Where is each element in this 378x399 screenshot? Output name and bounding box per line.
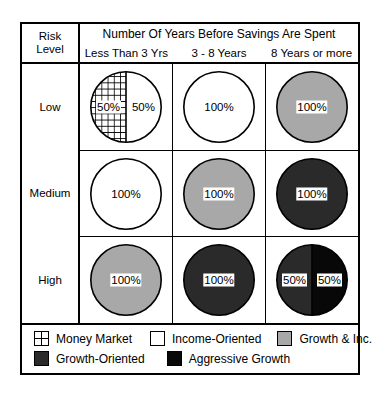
risk-level-column: Risk Level Low Medium High [22, 24, 80, 323]
pie-slice-value: 50% [96, 100, 121, 113]
legend-item-growth-oriented: Growth-Oriented [34, 351, 145, 366]
pie-slice-value: 50% [131, 100, 156, 113]
legend-item-growth-and-inc: Growth & Inc. [277, 331, 372, 346]
pie-chart: 100% [182, 243, 256, 317]
risk-level-header: Risk Level [22, 24, 78, 64]
legend-label-growth-and-inc: Growth & Inc. [299, 332, 372, 346]
risk-level-header-line2: Level [36, 43, 64, 56]
risk-level-header-line1: Risk [39, 30, 61, 43]
pie-chart: 50%50% [89, 70, 163, 144]
matrix-cell: 50%50% [266, 237, 358, 323]
pie-slice-value: 100% [203, 100, 234, 113]
pie-chart: 100% [89, 243, 163, 317]
matrix-body: Number Of Years Before Savings Are Spent… [80, 24, 358, 323]
row-label-medium: Medium [22, 150, 78, 236]
pie-slice-value: 100% [296, 187, 327, 200]
matrix-row-low: 50%50%100%100% [80, 64, 358, 151]
legend-label-money-market: Money Market [56, 332, 132, 346]
column-header-less-than-3-yrs: Less Than 3 Yrs [80, 43, 173, 62]
pie-slice-value: 100% [203, 187, 234, 200]
legend-swatch-aggressive-growth [167, 351, 182, 366]
column-header-3-8-years: 3 - 8 Years [173, 43, 266, 62]
legend-item-money-market: Money Market [34, 331, 132, 346]
column-subheaders: Less Than 3 Yrs 3 - 8 Years 8 Years or m… [80, 43, 358, 62]
legend-swatch-growth-oriented [34, 351, 49, 366]
matrix-cell: 50%50% [80, 64, 173, 150]
matrix-row-high: 100%100%50%50% [80, 237, 358, 323]
pie-slice-value: 100% [110, 187, 141, 200]
matrix-cell: 100% [173, 237, 266, 323]
pie-chart: 100% [275, 157, 349, 231]
matrix-row-medium: 100%100%100% [80, 151, 358, 238]
allocation-matrix: Risk Level Low Medium High Number Of Yea… [22, 24, 358, 325]
column-header-8-years-or-more: 8 Years or more [265, 43, 358, 62]
row-label-low: Low [22, 64, 78, 150]
pie-chart: 50%50% [275, 243, 349, 317]
matrix-cell: 100% [173, 64, 266, 150]
pie-slice-value: 100% [203, 274, 234, 287]
pie-rows: 50%50%100%100%100%100%100%100%100%50%50% [80, 64, 358, 323]
legend-label-income-oriented: Income-Oriented [172, 332, 261, 346]
pie-slice-value: 50% [282, 274, 307, 287]
matrix-cell: 100% [266, 151, 358, 237]
legend: Money MarketIncome-OrientedGrowth & Inc.… [22, 325, 358, 373]
pie-chart: 100% [182, 157, 256, 231]
legend-item-income-oriented: Income-Oriented [150, 331, 261, 346]
legend-row-1: Money MarketIncome-OrientedGrowth & Inc. [34, 331, 358, 346]
legend-swatch-money-market [34, 331, 49, 346]
column-headers: Number Of Years Before Savings Are Spent… [80, 24, 358, 64]
allocation-matrix-figure: Risk Level Low Medium High Number Of Yea… [20, 22, 360, 375]
legend-swatch-growth-and-inc [277, 331, 292, 346]
legend-row-2: Growth-OrientedAggressive Growth [34, 351, 358, 366]
pie-chart: 100% [89, 157, 163, 231]
matrix-cell: 100% [80, 237, 173, 323]
legend-label-growth-oriented: Growth-Oriented [56, 352, 145, 366]
matrix-title: Number Of Years Before Savings Are Spent [80, 24, 358, 43]
pie-chart: 100% [182, 70, 256, 144]
pie-chart: 100% [275, 70, 349, 144]
legend-item-aggressive-growth: Aggressive Growth [167, 351, 290, 366]
legend-label-aggressive-growth: Aggressive Growth [189, 352, 290, 366]
matrix-cell: 100% [80, 151, 173, 237]
matrix-cell: 100% [173, 151, 266, 237]
pie-slice-value: 100% [110, 274, 141, 287]
legend-swatch-income-oriented [150, 331, 165, 346]
matrix-cell: 100% [266, 64, 358, 150]
row-label-high: High [22, 237, 78, 323]
pie-slice-value: 50% [317, 274, 342, 287]
pie-slice-value: 100% [296, 100, 327, 113]
